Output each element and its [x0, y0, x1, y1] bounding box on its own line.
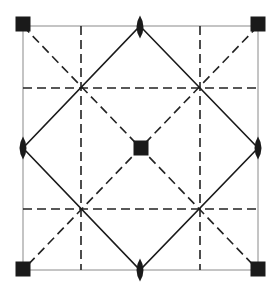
square-icon-corner-bottom-right	[251, 262, 266, 277]
fourfold-axis-squares	[16, 17, 266, 277]
square-icon-corner-top-left	[16, 17, 31, 32]
lens-icon-edge-bottom	[137, 259, 144, 282]
square-icon-center	[134, 141, 149, 156]
lens-icon-edge-left	[20, 137, 27, 160]
lens-icon-edge-top	[137, 16, 144, 39]
symmetry-diagram	[0, 0, 277, 293]
square-icon-corner-bottom-left	[16, 262, 31, 277]
square-icon-corner-top-right	[251, 17, 266, 32]
lens-icon-edge-right	[255, 137, 262, 160]
